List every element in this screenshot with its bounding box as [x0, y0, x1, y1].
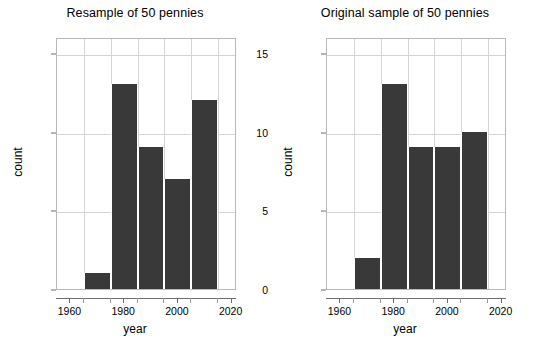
y-axis-tick-mark	[51, 53, 56, 54]
y-axis-tick-mark	[51, 132, 56, 133]
gridline-vertical	[218, 39, 219, 289]
y-axis-tick-mark	[321, 211, 326, 212]
histogram-figure: Resample of 50 pennies count year 051015…	[0, 0, 540, 343]
histogram-bar	[164, 179, 191, 289]
plot-area-original	[326, 38, 506, 290]
y-axis-tick-mark	[321, 132, 326, 133]
x-axis-tick-label: 1960	[309, 305, 369, 317]
x-axis-tick-label: 2000	[147, 305, 207, 317]
gridline-vertical	[84, 39, 85, 289]
x-axis-tick-mark	[393, 298, 394, 303]
histogram-bar	[461, 132, 488, 290]
y-axis-tick-mark	[321, 53, 326, 54]
x-axis-minor-tick-mark	[163, 298, 164, 303]
x-axis-minor-tick-mark	[433, 298, 434, 303]
x-axis-label: year	[270, 322, 540, 336]
x-axis-tick-mark	[69, 298, 70, 303]
histogram-bar	[408, 147, 435, 289]
x-axis-tick-label: 1960	[39, 305, 99, 317]
histogram-bar	[138, 147, 165, 289]
x-axis-minor-tick-mark	[217, 298, 218, 303]
y-axis-tick-mark	[321, 290, 326, 291]
y-axis-label: count	[281, 102, 295, 222]
x-axis-label: year	[0, 322, 270, 336]
y-axis-tick-label: 15	[222, 48, 268, 60]
x-axis-minor-tick-mark	[460, 298, 461, 303]
x-axis-tick-mark	[123, 298, 124, 303]
x-axis-minor-tick-mark	[83, 298, 84, 303]
x-axis-tick-mark	[339, 298, 340, 303]
plot-area-resample	[56, 38, 236, 290]
panel-original: Original sample of 50 pennies count year…	[270, 0, 540, 343]
x-axis-minor-tick-mark	[190, 298, 191, 303]
x-axis-minor-tick-mark	[353, 298, 354, 303]
x-axis-tick-label: 1980	[363, 305, 423, 317]
y-axis-tick-label: 10	[222, 127, 268, 139]
histogram-bar	[381, 84, 408, 289]
x-axis-tick-mark	[231, 298, 232, 303]
y-axis-tick-mark	[51, 211, 56, 212]
x-axis-minor-tick-mark	[380, 298, 381, 303]
panel-title: Resample of 50 pennies	[0, 6, 270, 20]
y-axis-tick-label: 0	[222, 284, 268, 296]
gridline-vertical	[488, 39, 489, 289]
x-axis-tick-label: 1980	[93, 305, 153, 317]
y-axis-tick-mark	[51, 290, 56, 291]
x-axis-tick-label: 2020	[471, 305, 531, 317]
x-axis-tick-mark	[501, 298, 502, 303]
x-axis-tick-mark	[447, 298, 448, 303]
x-axis-tick-label: 2000	[417, 305, 477, 317]
gridline-vertical	[354, 39, 355, 289]
x-axis-minor-tick-mark	[110, 298, 111, 303]
histogram-bar	[84, 273, 111, 289]
x-axis-tick-label: 2020	[201, 305, 261, 317]
panel-title: Original sample of 50 pennies	[270, 6, 540, 20]
histogram-bar	[434, 147, 461, 289]
histogram-bar	[191, 100, 218, 289]
x-axis-minor-tick-mark	[487, 298, 488, 303]
histogram-bar	[354, 258, 381, 290]
x-axis-minor-tick-mark	[407, 298, 408, 303]
y-axis-label: count	[11, 102, 25, 222]
x-axis-tick-mark	[177, 298, 178, 303]
y-axis-tick-label: 5	[222, 205, 268, 217]
histogram-bar	[111, 84, 138, 289]
x-axis-minor-tick-mark	[137, 298, 138, 303]
